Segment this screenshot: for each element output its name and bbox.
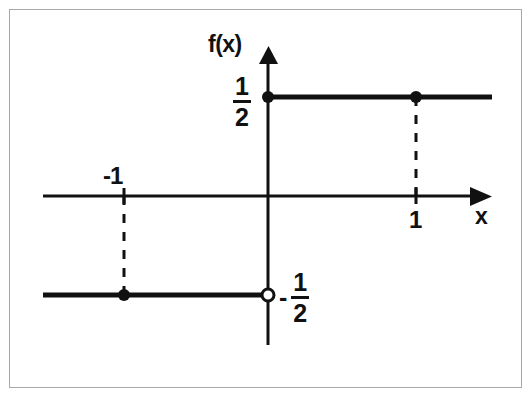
y-tick-label-positive-half: 1 2 [233,74,251,130]
fraction-body: 1 2 [291,270,309,326]
point-closed-x1 [410,91,422,103]
step-function-plot [0,0,531,399]
figure-canvas: f(x) x -1 1 1 2 - 1 2 [0,0,531,399]
x-axis-label: x [475,205,488,228]
x-tick-label-neg1: -1 [103,164,122,188]
fraction-numerator: 1 [233,74,251,103]
y-axis-label: f(x) [208,33,242,56]
fraction-numerator: 1 [291,270,309,299]
point-open-origin-lower [262,289,274,301]
minus-sign: - [279,283,287,312]
fraction-denominator: 2 [233,103,251,130]
point-closed-origin-upper [262,91,274,103]
point-closed-xneg1 [118,289,130,301]
y-tick-label-negative-half: - 1 2 [279,270,309,326]
fraction-denominator: 2 [291,299,309,326]
x-tick-label-pos1: 1 [409,208,422,232]
